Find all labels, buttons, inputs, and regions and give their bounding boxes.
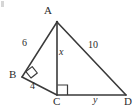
diagram-canvas (0, 0, 139, 108)
segment-label-bc: 4 (30, 81, 35, 91)
segment-label-ab: 6 (22, 38, 27, 48)
vertex-label-b: B (9, 69, 16, 80)
segment-ab (22, 22, 57, 77)
segment-bc (22, 77, 57, 95)
segment-label-ac: x (59, 47, 63, 57)
vertex-label-d: D (124, 96, 132, 107)
vertex-label-c: C (53, 96, 60, 107)
segment-label-cd: y (93, 95, 97, 105)
geometry-figure: A B C D 6 4 x 10 y (0, 0, 139, 108)
segment-ad (57, 22, 126, 95)
right-angle-c-icon (58, 85, 68, 95)
vertex-label-a: A (44, 5, 52, 16)
segment-label-ad: 10 (88, 40, 98, 50)
vertex-dot-a (56, 21, 58, 23)
